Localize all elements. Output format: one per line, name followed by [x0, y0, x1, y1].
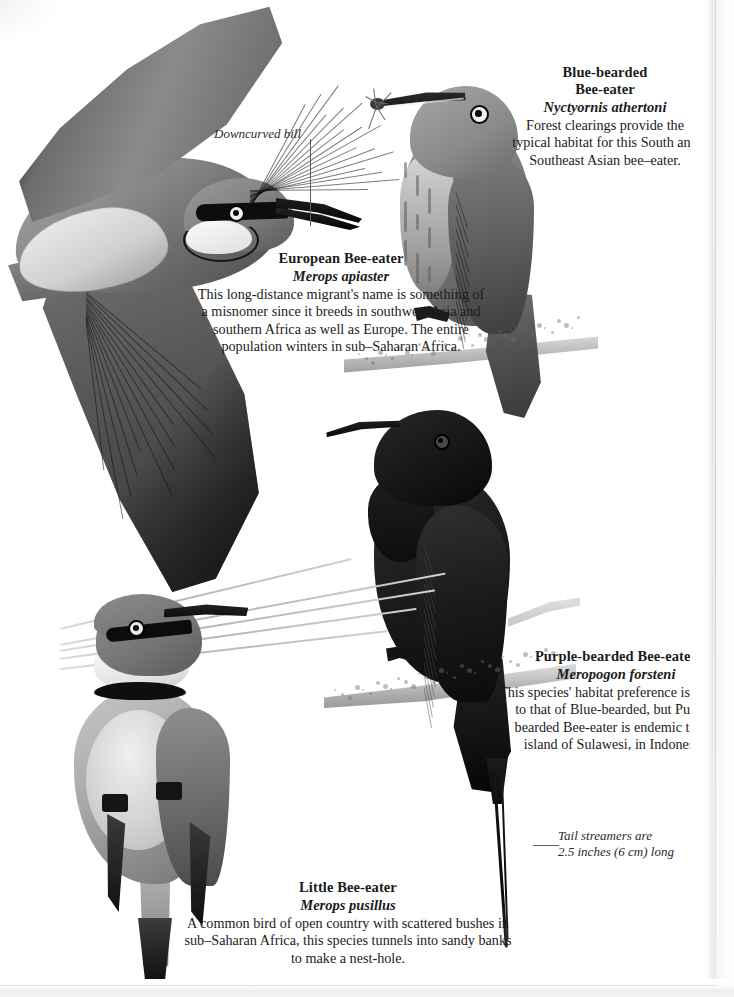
lichen-speck: [564, 323, 569, 328]
caption-scientific-name: Nyctyornis athertoni: [505, 98, 705, 116]
lichen-speck: [498, 330, 501, 333]
illustrated-plate-page: European Bee-eater Merops apiaster This …: [0, 0, 734, 997]
lichen-speck: [571, 327, 573, 329]
lichen-speck: [577, 316, 580, 319]
background-twig: [508, 594, 580, 628]
european-eye: [228, 205, 245, 222]
little-black-collar: [94, 682, 186, 700]
caption-common-name: European Bee-eater: [196, 250, 486, 267]
feather-stroke: [250, 189, 368, 191]
caption-common-name-line2: Bee-eater: [505, 81, 705, 98]
beard-streak: [404, 162, 407, 178]
caption-scientific-name: Merops apiaster: [196, 267, 486, 285]
little-tail-tip: [130, 918, 180, 980]
page-edge-bottom-line: [0, 985, 716, 986]
caption-scientific-name: Merops pusillus: [183, 896, 513, 914]
leader-line-downcurved-bill: [310, 139, 311, 226]
lichen-speck: [411, 684, 416, 689]
page-edge-bottom: [0, 979, 734, 997]
lichen-speck: [365, 357, 368, 360]
caption-european-bee-eater: European Bee-eater Merops apiaster This …: [196, 250, 486, 356]
caption-description: A common bird of open country with scatt…: [183, 915, 513, 967]
beard-streak: [428, 227, 431, 248]
lichen-speck: [383, 684, 388, 689]
caption-blue-bearded-bee-eater: Blue-bearded Bee-eater Nyctyornis athert…: [505, 64, 705, 169]
caption-description: This long-distance migrant's name is som…: [196, 286, 486, 356]
lichen-speck: [551, 331, 554, 334]
caption-common-name-line1: Blue-bearded: [505, 64, 705, 81]
purple-bearded-eye: [434, 434, 450, 450]
beard-streak: [428, 188, 431, 214]
beard-streak: [416, 214, 419, 230]
blue-bearded-eye: [470, 105, 489, 124]
lichen-speck: [537, 323, 542, 328]
beard-streak: [404, 201, 407, 232]
prey-insect-icon: [358, 86, 398, 122]
annotation-downcurved-bill: Downcurved bill: [214, 126, 334, 142]
little-eye: [128, 620, 145, 637]
lichen-speck: [488, 664, 492, 668]
leader-line-tail-streamers: [533, 845, 559, 846]
page-corner-shadow: [0, 0, 60, 40]
lichen-speck: [362, 689, 364, 691]
lichen-speck: [557, 319, 561, 323]
page-edge-right: [690, 0, 734, 997]
lichen-speck: [544, 327, 546, 329]
lichen-speck: [491, 341, 493, 343]
lichen-speck: [467, 668, 472, 673]
lichen-speck: [474, 672, 476, 674]
page-edge-right-line: [715, 0, 716, 986]
caption-common-name: Little Bee-eater: [183, 879, 513, 896]
little-foot-left: [102, 794, 128, 812]
lichen-speck: [390, 688, 392, 690]
lichen-speck: [518, 326, 520, 328]
beard-streak: [416, 175, 419, 196]
insect-leg: [368, 108, 376, 129]
caption-description: Forest clearings provide the typical hab…: [505, 117, 705, 169]
caption-little-bee-eater: Little Bee-eater Merops pusillus A commo…: [183, 879, 513, 967]
lichen-speck: [531, 334, 535, 338]
little-foot-right: [156, 782, 182, 800]
